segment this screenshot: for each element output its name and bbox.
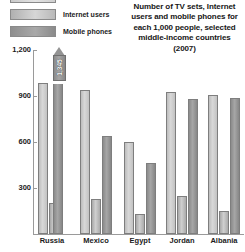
- bar-egypt-tv-sets: [124, 142, 134, 234]
- bar-mexico-mobile-phones: [102, 136, 112, 234]
- bar-albania-mobile-phones: [230, 98, 240, 234]
- bar-russia-mobile-phones: [53, 80, 63, 234]
- bar-overflow-arrow-russia-mobile-phones: 1,345: [53, 47, 66, 81]
- bar-egypt-internet-users: [135, 214, 145, 234]
- y-tick-label-600: 600: [3, 138, 31, 146]
- arrow-value-wrap: 1,345: [53, 56, 66, 79]
- bar-jordan-tv-sets: [166, 92, 176, 234]
- y-tick-label-900: 900: [3, 92, 31, 100]
- bar-egypt-mobile-phones: [146, 163, 156, 234]
- y-tick-900: [33, 96, 37, 97]
- x-axis-label-egypt: Egypt: [118, 236, 162, 245]
- bar-jordan-mobile-phones: [188, 99, 198, 234]
- y-tick-600: [33, 142, 37, 143]
- chart-root: TV sets Internet users Mobile phones Num…: [0, 0, 245, 252]
- bar-value-label-russia-mobile-phones: 1,345: [56, 59, 63, 75]
- x-axis-label-russia: Russia: [30, 236, 74, 245]
- y-tick-label-300: 300: [3, 184, 31, 192]
- x-axis-label-mexico: Mexico: [74, 236, 118, 245]
- bar-albania-internet-users: [219, 211, 229, 234]
- bar-albania-tv-sets: [208, 95, 218, 234]
- bar-mexico-internet-users: [91, 199, 101, 234]
- bar-jordan-internet-users: [177, 196, 187, 234]
- x-axis-label-jordan: Jordan: [160, 236, 204, 245]
- x-axis-baseline: [33, 234, 244, 235]
- chart-plot-area: 1,200 900 600 300 1,345 Russia Mexico: [0, 0, 245, 252]
- bar-russia-tv-sets: [38, 83, 48, 234]
- y-tick-1200: [33, 50, 37, 51]
- bar-mexico-tv-sets: [80, 90, 90, 234]
- y-tick-300: [33, 188, 37, 189]
- y-tick-label-1200: 1,200: [3, 46, 31, 54]
- x-axis-label-albania: Albania: [202, 236, 245, 245]
